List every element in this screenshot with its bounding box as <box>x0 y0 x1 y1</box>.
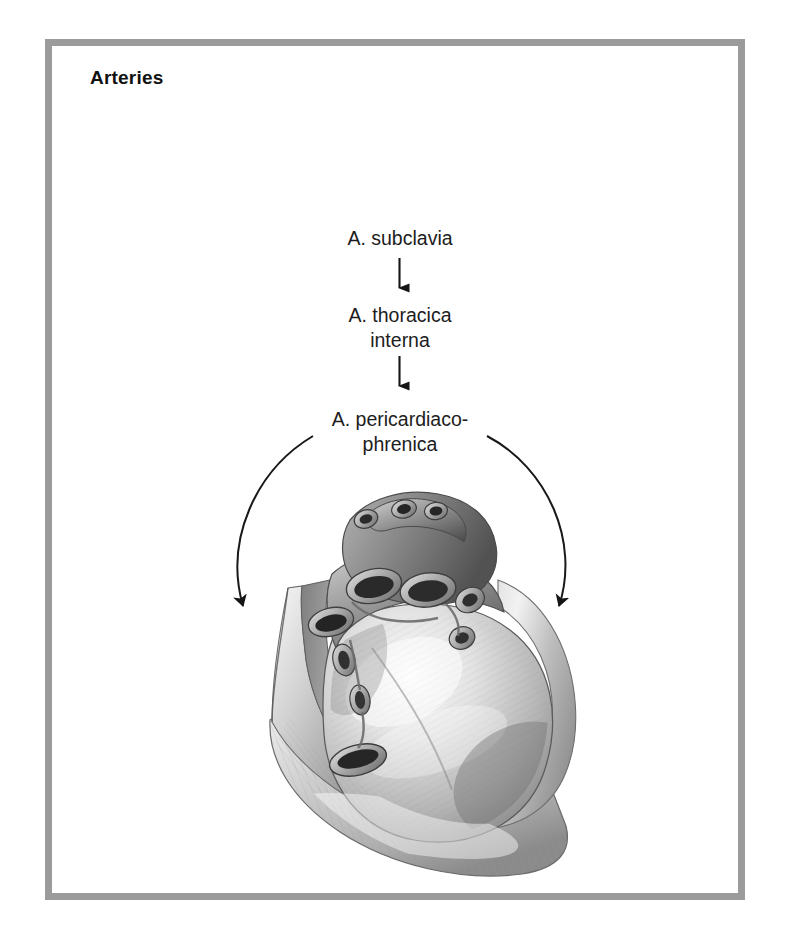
flow-node-pericardiacophrenica: A. pericardiaco- phrenica <box>238 407 562 457</box>
page-title: Arteries <box>90 67 163 89</box>
flow-node-thoracica-interna: A. thoracica interna <box>258 303 542 353</box>
figure-frame <box>45 39 745 900</box>
flow-node-subclavia: A. subclavia <box>258 226 542 251</box>
